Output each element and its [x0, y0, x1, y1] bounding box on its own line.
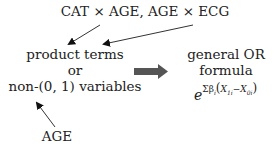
result-line-general-or: general OR [187, 47, 265, 62]
top-label-interaction-terms: CAT × AGE, AGE × ECG [61, 4, 229, 19]
or-formula: eΣβi(X1i−X0i) [194, 83, 257, 103]
center-line-or: or [68, 63, 83, 78]
arrow-cat-age-to-center [69, 25, 100, 44]
bottom-label-age: AGE [42, 129, 72, 144]
result-line-formula: formula [199, 63, 252, 78]
center-line-product-terms: product terms [26, 47, 123, 62]
arrow-age-ecg-to-center [104, 25, 193, 44]
arrow-age-to-center [37, 103, 55, 127]
formula-exponent: Σβi(X1i−X0i) [202, 84, 257, 94]
center-line-non-binary-variables: non-(0, 1) variables [8, 79, 141, 94]
thick-arrow-to-result [134, 64, 168, 79]
